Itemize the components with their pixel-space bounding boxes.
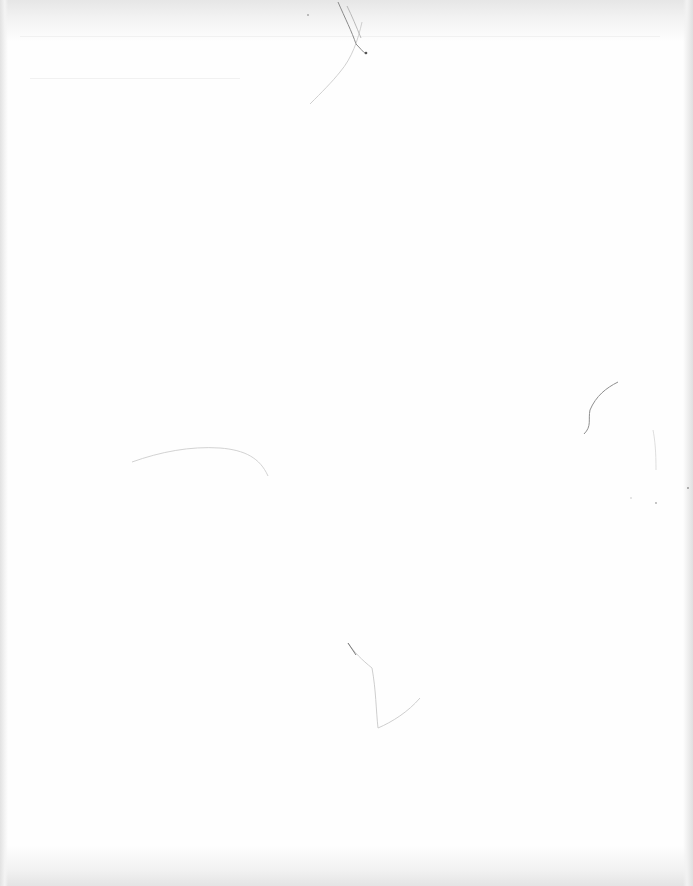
hair-artifact [132,448,268,476]
hair-artifact [348,643,420,728]
blank-document-page [0,0,693,886]
hair-artifact [584,382,618,434]
scan-artifacts [0,0,693,886]
hair-artifact [653,430,656,470]
hair-artifact [338,2,366,54]
hair-artifact [310,22,362,104]
